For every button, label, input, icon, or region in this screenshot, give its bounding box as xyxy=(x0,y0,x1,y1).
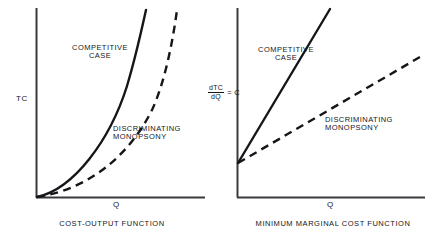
left-competitive-case-label-line2: CASE xyxy=(64,52,136,60)
right-y-axis-label: dTC dQ = C xyxy=(208,84,240,101)
chart-cost-output-function: TC COMPETITIVE CASE DISCRIMINATING MONOP… xyxy=(0,0,215,238)
left-x-axis-label: Q xyxy=(113,201,120,210)
left-discriminating-monopsony-curve xyxy=(37,10,177,197)
left-competitive-case-curve xyxy=(37,10,146,197)
right-x-axis-label: Q xyxy=(327,201,334,210)
right-chart-caption: MINIMUM MARGINAL COST FUNCTION xyxy=(238,220,428,228)
left-competitive-case-label: COMPETITIVE CASE xyxy=(64,44,136,61)
chart-minimum-marginal-cost-function: dTC dQ = C COMPETITIVE CASE DISCRIMINATI… xyxy=(200,0,430,238)
right-y-axis-fraction: dTC dQ xyxy=(208,84,224,101)
left-y-axis-label: TC xyxy=(16,95,28,104)
right-y-axis-numerator: dTC xyxy=(208,84,224,92)
right-discriminating-monopsony-label-line2: MONOPSONY xyxy=(325,124,417,132)
right-y-axis-equals: = C xyxy=(227,88,240,97)
left-chart-caption: COST-OUTPUT FUNCTION xyxy=(22,220,202,228)
left-discriminating-monopsony-label-line2: MONOPSONY xyxy=(113,133,205,141)
right-competitive-case-line xyxy=(238,9,330,163)
right-discriminating-monopsony-line xyxy=(238,57,420,163)
right-competitive-case-label-line2: CASE xyxy=(250,54,322,62)
economics-figure: TC COMPETITIVE CASE DISCRIMINATING MONOP… xyxy=(0,0,430,238)
right-competitive-case-label: COMPETITIVE CASE xyxy=(250,46,322,63)
cost-output-plot-svg xyxy=(0,0,215,238)
left-discriminating-monopsony-label: DISCRIMINATING MONOPSONY xyxy=(113,125,205,142)
right-discriminating-monopsony-label: DISCRIMINATING MONOPSONY xyxy=(325,116,417,133)
right-y-axis-denominator: dQ xyxy=(210,93,222,101)
